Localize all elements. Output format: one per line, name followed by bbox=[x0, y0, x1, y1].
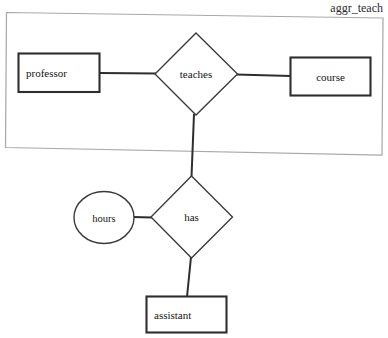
relationship-has-label: has bbox=[184, 211, 199, 223]
entity-professor-label: professor bbox=[26, 67, 67, 79]
edge-hours-has bbox=[133, 217, 152, 218]
entity-assistant-label: assistant bbox=[154, 309, 191, 321]
edge-professor-teaches bbox=[100, 73, 157, 74]
er-diagram-svg: professor course teaches has hours assis… bbox=[0, 0, 388, 338]
entity-course-label: course bbox=[316, 71, 345, 83]
edge-teaches-has bbox=[192, 114, 195, 177]
attribute-hours-label: hours bbox=[92, 213, 115, 224]
er-diagram-canvas: professor course teaches has hours assis… bbox=[0, 0, 388, 338]
edge-teaches-course bbox=[236, 75, 291, 77]
aggregation-title-label: aggr_teach bbox=[330, 1, 383, 15]
relationship-teaches-label: teaches bbox=[180, 68, 212, 80]
edge-has-assistant bbox=[187, 257, 191, 297]
